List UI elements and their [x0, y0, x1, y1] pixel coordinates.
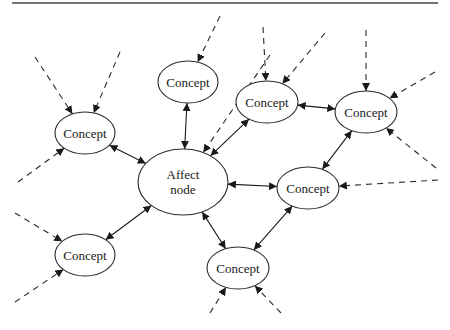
node-label: Concept — [166, 75, 210, 90]
bidirectional-arrow-affect-c1 — [109, 145, 145, 163]
dashed-arrow-to-c6 — [15, 213, 62, 241]
node-label: Affect — [167, 167, 200, 182]
dashed-arrow-to-c1 — [35, 57, 72, 114]
dashed-arrow-to-c3 — [263, 27, 266, 81]
node-label: Concept — [245, 95, 289, 110]
bidirectional-arrow-c3-c4 — [298, 105, 336, 109]
bidirectional-arrow-c5-c7 — [254, 206, 292, 250]
bidirectional-arrow-affect-c6 — [106, 206, 152, 240]
dashed-arrow-to-c6 — [15, 270, 63, 302]
dashed-arrow-to-c2 — [198, 16, 220, 62]
node-label: Concept — [344, 105, 388, 120]
concept-node[interactable]: Concept — [207, 247, 269, 289]
bidirectional-arrow-affect-c3 — [210, 119, 249, 156]
dashed-arrow-to-c1 — [18, 148, 64, 182]
dashed-arrow-to-c3 — [282, 33, 325, 84]
dashed-arrow-to-c7 — [210, 287, 226, 313]
concept-node[interactable]: Concept — [55, 234, 115, 276]
bidirectional-arrow-c4-c5 — [322, 131, 352, 170]
dashed-arrow-to-c4 — [390, 72, 435, 98]
dashed-arrow-to-c5 — [339, 180, 438, 186]
dashed-arrow-to-c4 — [386, 128, 436, 168]
concept-node[interactable]: Concept — [158, 61, 218, 103]
concept-node[interactable]: Concept — [236, 81, 298, 123]
dashed-arrow-to-c7 — [255, 286, 281, 313]
nodes: AffectnodeConceptConceptConceptConceptCo… — [55, 61, 397, 289]
node-label: Concept — [63, 126, 107, 141]
concept-node[interactable]: Concept — [335, 91, 397, 133]
dashed-arrow-to-c1 — [94, 52, 120, 113]
node-label: Concept — [63, 248, 107, 263]
bidirectional-arrow-affect-c7 — [202, 212, 226, 249]
concept-node[interactable]: Concept — [277, 167, 339, 209]
node-label: Concept — [216, 261, 260, 276]
bidirectional-arrow-affect-c5 — [228, 184, 277, 186]
affect-node[interactable]: Affectnode — [138, 149, 228, 215]
concept-node[interactable]: Concept — [55, 112, 115, 154]
bidirectional-arrow-affect-c2 — [185, 103, 187, 149]
node-label: Concept — [286, 181, 330, 196]
node-label: node — [170, 182, 196, 197]
affect-network-diagram: AffectnodeConceptConceptConceptConceptCo… — [0, 0, 450, 330]
